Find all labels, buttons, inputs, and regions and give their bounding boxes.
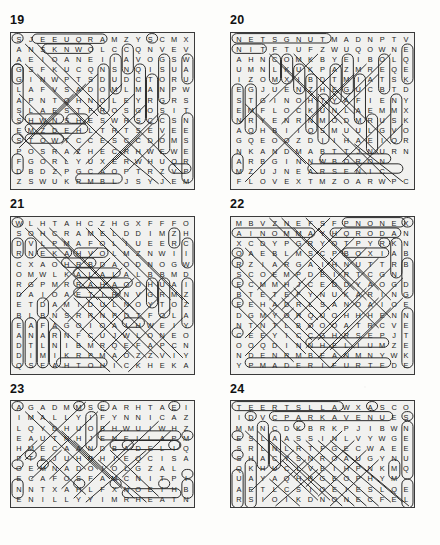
letter-cell: H [37, 229, 49, 239]
letter-cell: R [364, 321, 376, 331]
letter-cell: E [120, 454, 132, 464]
letter-cell: Q [132, 454, 144, 464]
letter-cell: L [37, 341, 49, 351]
letter-cell: S [352, 331, 364, 341]
letter-cell: O [25, 147, 37, 157]
letter-cell: R [376, 239, 388, 249]
letter-cell: R [340, 331, 352, 341]
letter-cell: I [364, 167, 376, 177]
letter-cell: T [49, 96, 61, 106]
letter-cell: I [376, 290, 388, 300]
letter-cell: N [37, 75, 49, 85]
letter-cell: G [376, 270, 388, 280]
letter-cell: A [61, 55, 73, 65]
letter-cell: M [25, 126, 37, 136]
letter-cell: L [388, 55, 400, 65]
letter-cell: R [49, 331, 61, 341]
letter-cell: N [25, 45, 37, 55]
letter-cell: E [245, 485, 257, 495]
letter-cell: E [245, 300, 257, 310]
letter-cell: O [364, 45, 376, 55]
letter-cell: H [340, 311, 352, 321]
letter-cell: I [317, 361, 329, 371]
letter-cell: K [245, 464, 257, 474]
letter-cell: B [144, 270, 156, 280]
letter-cell: I [293, 126, 305, 136]
letter-cell: V [25, 239, 37, 249]
letter-cell: M [388, 474, 400, 484]
letter-cell: G [144, 290, 156, 300]
letter-cell: T [245, 290, 257, 300]
letter-cell: Q [132, 65, 144, 75]
letter-cell: K [293, 495, 305, 505]
letter-cell: O [61, 474, 73, 484]
letter-cell: E [13, 300, 25, 310]
letter-cell: Y [233, 361, 245, 371]
letter-cell: Q [73, 35, 85, 45]
letter-cell: E [108, 157, 120, 167]
letter-cell: W [340, 403, 352, 413]
letter-cell: A [233, 126, 245, 136]
letter-cell: D [120, 311, 132, 321]
letter-cell: A [25, 434, 37, 444]
letter-cell: R [340, 270, 352, 280]
letter-cell: S [108, 65, 120, 75]
letter-cell: J [352, 424, 364, 434]
letter-cell: O [364, 219, 376, 229]
letter-cell: O [85, 45, 97, 55]
letter-cell: H [328, 331, 340, 341]
letter-cell: I [233, 75, 245, 85]
letter-cell: O [233, 341, 245, 351]
letter-cell: I [37, 55, 49, 65]
letter-cell: E [269, 116, 281, 126]
letter-cell: U [180, 75, 192, 85]
letter-cell: B [180, 485, 192, 495]
letter-cell: S [168, 55, 180, 65]
letter-cell: N [25, 331, 37, 341]
letter-cell: A [156, 495, 168, 505]
letter-cell: O [400, 126, 412, 136]
letter-cell: R [245, 444, 257, 454]
letter-cell: O [364, 229, 376, 239]
letter-cell: N [85, 444, 97, 454]
letter-cell: M [317, 116, 329, 126]
letter-cell: E [317, 280, 329, 290]
letter-cell: K [400, 75, 412, 85]
letter-cell: P [352, 239, 364, 249]
letter-cell: T [388, 35, 400, 45]
letter-cell: N [340, 495, 352, 505]
letter-cell: D [97, 444, 109, 454]
letter-cell: Q [400, 55, 412, 65]
letter-cell: V [388, 126, 400, 136]
letter-cell: U [376, 116, 388, 126]
letter-cell: T [376, 75, 388, 85]
letter-cell: R [168, 75, 180, 85]
letter-cell: E [388, 495, 400, 505]
letter-cell: G [388, 434, 400, 444]
letter-cell: L [400, 495, 412, 505]
letters-21: WLHTAHCZHGXFFFOSOHCRAMELDDIMZHDVLPMAFOLI… [13, 219, 192, 372]
letter-cell [388, 157, 400, 167]
letter-cell: S [85, 75, 97, 85]
letter-cell: E [97, 434, 109, 444]
letter-cell: F [97, 413, 109, 423]
letter-cell: O [328, 454, 340, 464]
letter-cell: Q [85, 65, 97, 75]
letter-cell: Y [269, 311, 281, 321]
letter-cell: E [156, 361, 168, 371]
letter-cell: D [13, 351, 25, 361]
letter-cell: N [180, 341, 192, 351]
letter-cell: A [49, 361, 61, 371]
letter-cell: W [120, 331, 132, 341]
letter-cell: E [257, 331, 269, 341]
letter-cell: L [340, 341, 352, 351]
letter-cell: D [49, 403, 61, 413]
letter-cell: I [352, 341, 364, 351]
letter-cell: M [37, 464, 49, 474]
letter-cell: R [364, 65, 376, 75]
letter-cell: N [352, 219, 364, 229]
letter-cell: M [49, 280, 61, 290]
letter-cell: E [120, 341, 132, 351]
letter-cell: S [85, 403, 97, 413]
puzzle-grid-layout: 19 SJEEUQRAMZYSCMXANSKNWOLCCQNVEVAEIOANE… [10, 14, 430, 508]
